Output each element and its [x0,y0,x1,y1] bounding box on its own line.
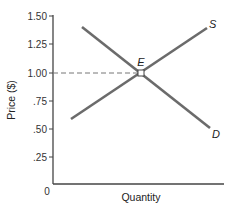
supply-label: S [209,18,217,30]
origin-label: 0 [44,186,50,197]
y-tick-label-075: .75 [33,96,47,107]
x-axis-title: Quantity [121,191,161,203]
demand-label: D [212,128,220,140]
equilibrium-marker [138,70,144,76]
y-tick-label-150: 1.50 [28,11,48,22]
y-tick-label-050: .50 [33,124,47,135]
equilibrium-label: E [137,56,145,68]
y-axis-title: Price ($) [5,80,17,120]
demand-curve [82,27,210,128]
y-tick-label-100: 1.00 [28,68,48,79]
y-tick-label-025: .25 [33,152,47,163]
y-tick-label-125: 1.25 [28,39,48,50]
supply-demand-chart: 1.50 1.25 1.00 .75 .50 .25 0 Price ($) Q… [0,0,235,212]
